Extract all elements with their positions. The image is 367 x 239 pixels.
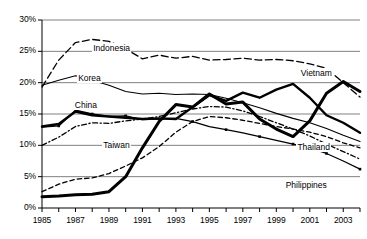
series-label-korea: Korea: [77, 73, 102, 83]
y-axis-tick-label: 0%: [24, 202, 36, 212]
series-marker-thailand: [225, 128, 228, 131]
x-axis-tick-label: 1985: [27, 215, 57, 225]
series-marker-thailand: [191, 120, 194, 123]
series-marker-thailand: [124, 115, 127, 118]
series-marker-thailand: [57, 125, 60, 128]
y-axis-tick-label: 25%: [19, 45, 36, 55]
x-axis-tick-label: 1993: [161, 215, 191, 225]
y-axis-tick-label: 20%: [19, 77, 36, 87]
x-axis-tick-label: 1987: [60, 215, 90, 225]
series-label-indonesia: Indonesia: [92, 43, 131, 53]
y-axis-tick-label: 30%: [19, 14, 36, 24]
series-label-vietnam: Vietnam: [300, 68, 333, 78]
series-label-philippines: Philippines: [285, 180, 328, 190]
series-marker-thailand: [91, 113, 94, 116]
y-axis-tick-label: 5%: [24, 171, 36, 181]
series-label-taiwan: Taiwan: [102, 140, 130, 150]
line-chart: 0%5%10%15%20%25%30%198519871989199119931…: [0, 0, 367, 239]
series-marker-thailand: [325, 152, 328, 155]
series-label-china: China: [74, 100, 98, 110]
series-marker-thailand: [292, 143, 295, 146]
x-axis-tick-label: 2003: [328, 215, 358, 225]
x-axis-tick-label: 1989: [94, 215, 124, 225]
series-marker-thailand: [258, 135, 261, 138]
y-axis-tick-label: 10%: [19, 139, 36, 149]
series-marker-thailand: [359, 168, 362, 171]
x-axis-tick-label: 1995: [194, 215, 224, 225]
x-axis-tick-label: 1997: [228, 215, 258, 225]
series-label-thailand: Thailand: [296, 142, 331, 152]
x-axis-tick-label: 1991: [127, 215, 157, 225]
x-axis-tick-label: 1999: [261, 215, 291, 225]
y-axis-tick-label: 15%: [19, 108, 36, 118]
chart-plot-area: [0, 0, 367, 239]
x-axis-tick-label: 2001: [295, 215, 325, 225]
